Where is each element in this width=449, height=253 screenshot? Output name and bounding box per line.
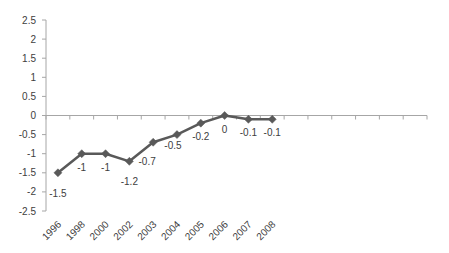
y-tick-label: 2.5 — [22, 15, 36, 26]
line-chart: 2.521.510.50-0.5-1-1.5-2-2.5 19961998200… — [0, 0, 449, 253]
y-tick-label: 0.5 — [22, 91, 36, 102]
x-tick-label: 2002 — [111, 218, 135, 242]
x-axis: 1996199820002002200320042005200620072008 — [40, 116, 427, 243]
x-tick-label: 2008 — [254, 218, 278, 242]
x-tick-label: 2006 — [206, 218, 230, 242]
y-tick-label: -2.5 — [19, 206, 37, 217]
data-label: -1.5 — [49, 188, 67, 199]
data-label: -0.5 — [164, 140, 182, 151]
x-tick-label: 2003 — [135, 218, 159, 242]
data-label: 0 — [222, 124, 228, 135]
data-point-marker — [102, 150, 110, 158]
y-tick-label: 1 — [30, 72, 36, 83]
data-point-marker — [173, 131, 181, 139]
data-label: -1 — [77, 162, 86, 173]
data-label: -1.2 — [121, 176, 139, 187]
x-tick-label: 2005 — [183, 218, 207, 242]
y-tick-label: 0 — [30, 110, 36, 121]
y-tick-label: -2 — [27, 186, 36, 197]
y-axis: 2.521.510.50-0.5-1-1.5-2-2.5 — [19, 15, 46, 217]
data-point-marker — [244, 115, 252, 123]
y-tick-label: 1.5 — [22, 53, 36, 64]
data-point-marker — [197, 119, 205, 127]
data-label: -0.7 — [139, 156, 157, 167]
data-label: -0.1 — [240, 127, 258, 138]
x-tick-label: 2004 — [159, 218, 183, 242]
data-labels: -1.5-1-1-1.2-0.7-0.5-0.20-0.1-0.1 — [49, 124, 281, 199]
y-tick-label: -1.5 — [19, 167, 37, 178]
x-tick-label: 2000 — [87, 218, 111, 242]
data-point-marker — [221, 112, 229, 120]
data-point-marker — [268, 115, 276, 123]
y-tick-label: -0.5 — [19, 129, 37, 140]
y-tick-label: -1 — [27, 148, 36, 159]
data-label: -1 — [101, 162, 110, 173]
data-label: -0.1 — [264, 127, 282, 138]
x-tick-label: 1996 — [40, 218, 64, 242]
y-tick-label: 2 — [30, 34, 36, 45]
x-tick-label: 1998 — [64, 218, 88, 242]
data-label: -0.2 — [192, 131, 210, 142]
x-tick-label: 2007 — [230, 218, 254, 242]
